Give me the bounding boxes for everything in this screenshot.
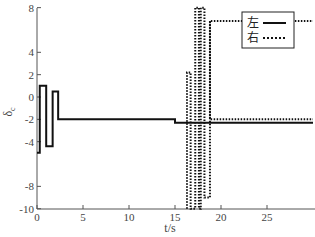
- x-axis-label: t/s: [164, 221, 176, 235]
- chart-canvas: 8420-2-4-8-10 0510152025 t/s δc 左 右: [0, 0, 315, 237]
- y-tick-label: 0: [29, 91, 35, 103]
- y-tick-label: -2: [25, 113, 34, 125]
- legend-label-left: 左: [247, 15, 259, 30]
- x-tick-label: 25: [262, 211, 274, 223]
- x-ticks: 0510152025: [34, 205, 273, 223]
- y-tick-label: 8: [29, 2, 35, 14]
- x-tick-label: 10: [124, 211, 136, 223]
- y-ticks: 8420-2-4-8-10: [19, 2, 41, 215]
- y-axis-label: δc: [1, 107, 17, 117]
- legend: 左 右: [242, 12, 294, 48]
- x-tick-label: 5: [80, 211, 86, 223]
- y-tick-label: 4: [29, 46, 35, 58]
- x-tick-label: 20: [216, 211, 228, 223]
- legend-label-right: 右: [247, 30, 259, 45]
- y-tick-label: -4: [25, 136, 35, 148]
- svg-text:δc: δc: [1, 107, 17, 117]
- x-tick-label: 0: [34, 211, 40, 223]
- y-tick-label: 2: [29, 69, 35, 81]
- y-tick-label: -8: [25, 180, 35, 192]
- y-tick-label: -10: [19, 203, 34, 215]
